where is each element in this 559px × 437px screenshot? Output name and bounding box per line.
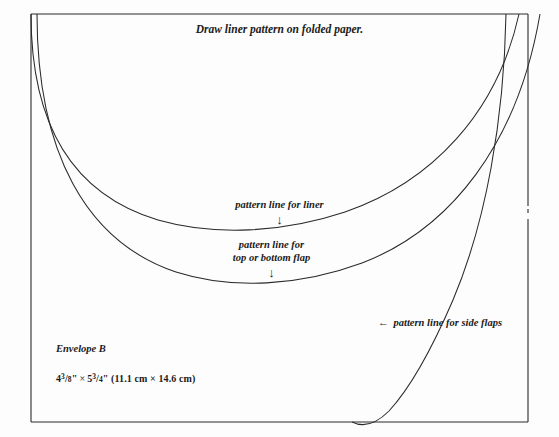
flap-label-line-1: pattern line for	[239, 239, 304, 250]
down-arrow-icon: ↓	[0, 212, 559, 228]
metric-dimensions: (11.1 cm × 14.6 cm)	[111, 373, 195, 384]
down-arrow-icon: ↓	[0, 265, 543, 281]
side-flaps-label-text: pattern line for side flaps	[394, 317, 503, 328]
envelope-dimensions-label: 43/8"×53/4" (11.1 cm × 14.6 cm)	[56, 372, 195, 385]
flap-label-line-2: top or bottom flap	[233, 252, 310, 263]
flap-pattern-label: pattern line for top or bottom flap	[0, 238, 543, 264]
times-symbol: ×	[79, 373, 85, 384]
side-flaps-pattern-label: ←pattern line for side flaps	[378, 316, 502, 329]
height-fraction-numerator: 3	[92, 372, 96, 381]
diagram-canvas: Draw liner pattern on folded paper. patt…	[0, 0, 559, 437]
width-inch-mark: "	[72, 373, 78, 384]
diagram-title: Draw liner pattern on folded paper.	[0, 22, 559, 36]
width-fraction-numerator: 3	[61, 372, 65, 381]
left-arrow-icon: ←	[378, 317, 389, 328]
height-inch-mark: "	[103, 373, 109, 384]
envelope-name-label: Envelope B	[56, 342, 106, 355]
liner-pattern-label: pattern line for liner	[0, 198, 559, 211]
